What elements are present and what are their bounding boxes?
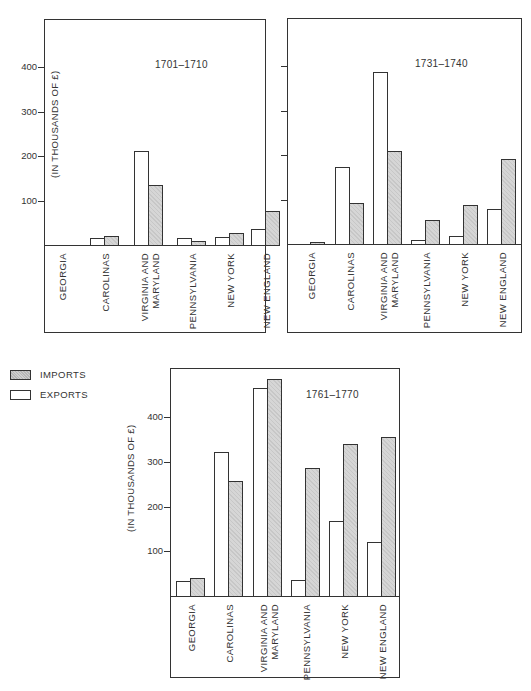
legend-imports: IMPORTS — [10, 369, 86, 380]
chart-1731-1740-bar-exports — [335, 167, 350, 245]
chart-1731-1740-frame — [287, 18, 522, 333]
chart-1701-1710-bar-imports — [191, 241, 206, 246]
chart-1701-1710-bar-exports — [215, 237, 230, 246]
chart-1761-1770-bar-exports — [253, 388, 268, 597]
chart-1761-1770-tick — [164, 462, 170, 463]
chart-1701-1710-tick-label: 400 — [11, 61, 37, 72]
chart-1761-1770-bar-exports — [214, 452, 229, 597]
chart-1761-1770-category-label: PENNSYLVANIA — [301, 604, 312, 684]
chart-1701-1710-category-label: PENNSYLVANIA — [187, 253, 198, 333]
chart-1701-1710-bar-exports — [177, 238, 192, 246]
chart-1701-1710-tick — [38, 201, 44, 202]
chart-1731-1740-tick — [281, 66, 287, 67]
chart-1701-1710-tick-label: 300 — [11, 106, 37, 117]
chart-1731-1740-category-label: GEORGIA — [306, 252, 317, 332]
chart-1761-1770-category-label: NEW YORK — [339, 604, 350, 684]
chart-1701-1710-tick — [38, 67, 44, 68]
chart-1761-1770-tick-label: 400 — [137, 411, 163, 422]
legend-exports: EXPORTS — [10, 389, 88, 400]
chart-1761-1770-bar-imports — [190, 578, 205, 597]
chart-1761-1770-tick — [164, 507, 170, 508]
chart-1731-1740-bar-imports — [310, 242, 325, 245]
chart-1701-1710-tick — [38, 112, 44, 113]
chart-1761-1770-bar-exports — [176, 581, 191, 597]
chart-1731-1740-category-label: NEW ENGLAND — [497, 252, 508, 332]
chart-1761-1770-title: 1761–1770 — [306, 389, 359, 400]
chart-1761-1770-bar-imports — [228, 481, 243, 597]
chart-1761-1770-category-label: NEW ENGLAND — [377, 604, 388, 684]
chart-1761-1770-bar-imports — [381, 437, 396, 597]
imports-swatch-icon — [10, 370, 31, 380]
legend-exports-label: EXPORTS — [40, 389, 88, 400]
chart-1731-1740-bar-imports — [501, 159, 516, 245]
chart-1761-1770-tick-label: 300 — [137, 456, 163, 467]
chart-1701-1710-tick — [38, 156, 44, 157]
chart-1731-1740-bar-imports — [425, 220, 440, 245]
chart-1761-1770-tick-label: 100 — [137, 545, 163, 556]
chart-1701-1710-category-label: CAROLINAS — [100, 253, 111, 333]
chart-1701-1710-bar-exports — [90, 238, 105, 246]
chart-1761-1770-category-label: GEORGIA — [186, 604, 197, 684]
chart-1731-1740-tick — [281, 200, 287, 201]
chart-1761-1770-category-label: CAROLINAS — [224, 604, 235, 684]
chart-1701-1710-tick-label: 200 — [11, 150, 37, 161]
chart-1701-1710-category-label: NEW ENGLAND — [261, 253, 272, 333]
chart-1761-1770-bar-imports — [343, 444, 358, 597]
chart-1731-1740-bar-imports — [387, 151, 402, 245]
chart-1761-1770-bar-imports — [305, 468, 320, 597]
chart-1701-1710-y-axis-label: (IN THOUSANDS OF £) — [49, 71, 60, 178]
chart-1701-1710-category-label: GEORGIA — [57, 253, 68, 333]
chart-1701-1710-category-label: NEW YORK — [225, 253, 236, 333]
chart-1761-1770-bar-exports — [291, 580, 306, 597]
chart-1731-1740-title: 1731–1740 — [415, 58, 468, 69]
chart-1731-1740-bar-exports — [449, 236, 464, 245]
chart-1731-1740-bar-exports — [373, 72, 388, 245]
chart-1761-1770-tick — [164, 417, 170, 418]
chart-1761-1770-tick-label: 200 — [137, 501, 163, 512]
chart-1701-1710-tick-label: 100 — [11, 195, 37, 206]
legend-imports-label: IMPORTS — [40, 369, 86, 380]
chart-1731-1740-bar-imports — [349, 203, 364, 245]
chart-1731-1740-category-label: CAROLINAS — [345, 252, 356, 332]
chart-1701-1710-bar-imports — [104, 236, 119, 246]
chart-1761-1770-bar-imports — [267, 379, 282, 597]
chart-1731-1740-category-label: PENNSYLVANIA — [421, 252, 432, 332]
chart-1701-1710-bar-exports — [251, 229, 266, 246]
chart-1731-1740-tick — [281, 155, 287, 156]
chart-1731-1740-tick — [281, 111, 287, 112]
chart-1701-1710-title: 1701–1710 — [155, 59, 208, 70]
exports-swatch-icon — [10, 390, 31, 400]
chart-1761-1770-y-axis-label: (IN THOUSANDS OF £) — [125, 425, 136, 532]
chart-1701-1710-bar-imports — [148, 185, 163, 246]
chart-1761-1770-tick — [164, 551, 170, 552]
chart-1701-1710-bar-exports — [134, 151, 149, 246]
chart-1701-1710-bar-imports — [229, 233, 244, 246]
chart-1731-1740-category-label: VIRGINIA AND MARYLAND — [378, 252, 400, 332]
chart-1731-1740-category-label: NEW YORK — [459, 252, 470, 332]
chart-1731-1740-bar-imports — [463, 205, 478, 245]
chart-1701-1710-category-label: VIRGINIA AND MARYLAND — [139, 253, 161, 333]
chart-1701-1710-bar-imports — [265, 211, 280, 246]
chart-1761-1770-frame — [170, 368, 400, 678]
chart-1731-1740-bar-exports — [487, 209, 502, 245]
chart-1761-1770-bar-exports — [367, 542, 382, 597]
chart-1731-1740-bar-exports — [411, 240, 426, 245]
chart-1761-1770-category-label: VIRGINIA AND MARYLAND — [258, 604, 280, 684]
chart-1761-1770-bar-exports — [329, 521, 344, 597]
